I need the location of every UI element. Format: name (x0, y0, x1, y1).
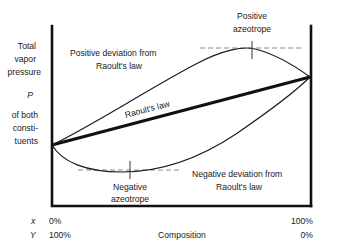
positive-deviation-label-line1: Positive deviation from (70, 48, 156, 58)
xaxis-symbol-y: Y (30, 230, 37, 240)
negative-azeotrope-label-line2: azeotrope (111, 194, 149, 204)
negative-deviation-label-line2: Raoult's law (216, 182, 263, 192)
positive-azeotrope-label-line1: Positive (237, 11, 267, 21)
diagram-canvas: Total vapor pressure P of both consti- t… (0, 0, 340, 248)
positive-deviation-label-line2: Raoult's law (96, 61, 143, 71)
positive-azeotrope-label-line2: azeotrope (233, 24, 271, 34)
negative-deviation-label-line1: Negative deviation from (192, 169, 282, 179)
negative-azeotrope-label-line1: Negative (113, 182, 147, 192)
xaxis-symbol-x: x (30, 216, 36, 226)
xaxis-right-x-value: 100% (291, 216, 313, 226)
yaxis-label-line3: pressure (8, 67, 42, 77)
vapor-pressure-composition-diagram: Total vapor pressure P of both consti- t… (0, 0, 340, 248)
xaxis-right-y-value: 0% (301, 230, 314, 240)
yaxis-label-line4: of both (12, 110, 39, 120)
yaxis-symbol-p: P (27, 90, 33, 100)
yaxis-label-line5: consti- (13, 123, 38, 133)
xaxis-left-x-value: 0% (49, 216, 62, 226)
xaxis-title: Composition (158, 230, 206, 240)
xaxis-left-y-value: 100% (49, 230, 71, 240)
yaxis-label-line1: Total (18, 41, 36, 51)
positive-deviation-curve (52, 48, 310, 145)
yaxis-label-line2: vapor (15, 54, 37, 64)
yaxis-label-line6: tuents (15, 136, 38, 146)
raoults-law-line (52, 77, 310, 145)
